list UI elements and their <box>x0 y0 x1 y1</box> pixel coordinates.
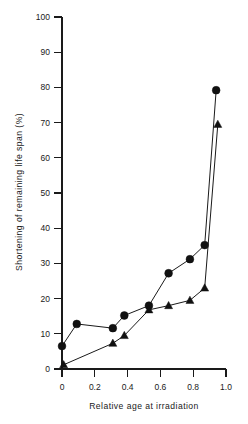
y-tick-label-90: 90 <box>41 47 51 57</box>
y-tick-label-60: 60 <box>41 153 51 163</box>
y-tick-label-70: 70 <box>41 118 51 128</box>
data-point-triangle <box>186 296 194 303</box>
y-axis-title: Shortening of remaining life span (%) <box>14 113 24 271</box>
data-point-circle <box>120 312 128 320</box>
data-point-triangle <box>201 284 209 291</box>
y-tick-label-0: 0 <box>45 364 50 374</box>
y-tick-label-20: 20 <box>41 294 51 304</box>
y-tick-label-80: 80 <box>41 82 51 92</box>
y-tick-label-10: 10 <box>41 329 51 339</box>
x-axis-title: Relative age at irradiation <box>89 401 199 411</box>
y-tick-label-100: 100 <box>36 12 50 22</box>
x-tick-label-0.8: 0.8 <box>187 382 199 392</box>
series-layer <box>58 86 222 367</box>
x-tick-label-0.4: 0.4 <box>122 382 134 392</box>
x-tick-label-group: 00.20.40.60.81.0 <box>60 382 233 392</box>
plot-area: 0102030405060708090100 00.20.40.60.81.0 … <box>0 0 248 424</box>
y-tick-group <box>54 17 62 369</box>
x-tick-label-0.2: 0.2 <box>89 382 101 392</box>
y-tick-label-50: 50 <box>41 188 51 198</box>
data-point-triangle <box>109 339 117 346</box>
y-tick-label-40: 40 <box>41 223 51 233</box>
series-circle-series <box>58 86 220 350</box>
data-point-triangle <box>214 120 222 127</box>
data-point-circle <box>73 320 81 328</box>
x-tick-label-0: 0 <box>60 382 65 392</box>
data-point-triangle <box>60 361 68 368</box>
x-axis: 00.20.40.60.81.0 <box>60 369 233 392</box>
y-tick-label-30: 30 <box>41 258 51 268</box>
y-axis: 0102030405060708090100 <box>36 12 62 374</box>
data-point-circle <box>212 86 220 94</box>
series-polyline <box>64 124 218 364</box>
data-point-circle <box>165 269 173 277</box>
data-point-circle <box>109 324 117 332</box>
series-polyline <box>62 90 216 346</box>
series-triangle-series <box>60 120 222 368</box>
x-tick-label-1: 1.0 <box>220 382 232 392</box>
chart-figure: 0102030405060708090100 00.20.40.60.81.0 … <box>0 0 248 424</box>
data-point-circle <box>186 255 194 263</box>
data-point-circle <box>58 342 66 350</box>
x-tick-group <box>62 369 226 377</box>
y-tick-label-group: 0102030405060708090100 <box>36 12 50 374</box>
x-tick-label-0.6: 0.6 <box>154 382 166 392</box>
